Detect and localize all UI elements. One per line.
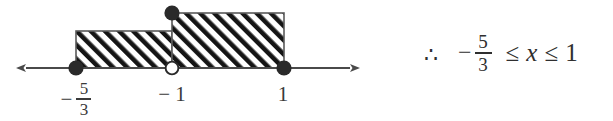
left-hatched-region [76, 31, 172, 68]
open-point-neg-one [166, 62, 179, 75]
closed-point-neg-five-thirds [68, 60, 83, 75]
conclusion-expression: ∴ − 5 3 ≤ x ≤ 1 [424, 27, 578, 79]
tick-label-one: 1 [252, 84, 314, 105]
tick-label-neg-five-thirds: − 5 3 [40, 80, 112, 118]
minus-sign: − [61, 89, 73, 110]
right-hatched-region [172, 13, 284, 68]
therefore-symbol: ∴ [424, 44, 438, 66]
closed-point-neg-one-top [164, 5, 179, 20]
closed-point-one [276, 60, 291, 75]
expression-fraction-five-thirds: 5 3 [475, 32, 492, 74]
expression-minus-sign: − [458, 40, 472, 64]
upper-bound-value: 1 [565, 40, 578, 65]
fraction-denominator: 3 [78, 100, 91, 118]
expression-fraction-denominator: 3 [478, 54, 488, 74]
less-than-or-equal-left: ≤ [506, 40, 520, 65]
expression-fraction-numerator: 5 [478, 32, 488, 52]
fraction-numerator: 5 [78, 80, 91, 98]
tick-label-neg-one: − 1 [138, 84, 206, 105]
less-than-or-equal-right: ≤ [544, 40, 558, 65]
fraction-five-thirds: 5 3 [76, 80, 91, 118]
variable-x: x [526, 40, 537, 65]
